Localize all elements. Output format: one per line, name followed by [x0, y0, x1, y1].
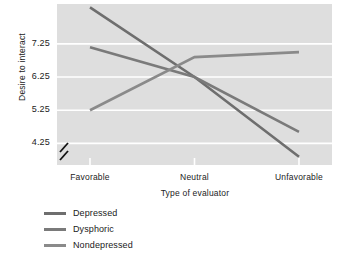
y-axis-title: Desire to interact — [17, 17, 27, 117]
legend: DepressedDysphoricNondepressed — [44, 205, 133, 253]
y-tick-label-6.25: 6.25 — [10, 71, 50, 81]
legend-swatch-icon — [44, 244, 66, 247]
legend-item-label: Depressed — [73, 208, 117, 218]
legend-item-label: Dysphoric — [73, 224, 114, 234]
legend-item-label: Nondepressed — [73, 240, 133, 250]
chart-figure: 7.256.255.254.25 FavorableNeutralUnfavor… — [0, 0, 341, 263]
x-tick-label-favorable: Favorable — [50, 172, 130, 182]
legend-swatch-icon — [44, 228, 66, 231]
plot-background — [57, 4, 332, 165]
legend-swatch-icon — [44, 212, 66, 215]
legend-item-dysphoric: Dysphoric — [44, 221, 133, 237]
legend-item-depressed: Depressed — [44, 205, 133, 221]
y-tick-label-4.25: 4.25 — [10, 137, 50, 147]
x-axis-title: Type of evaluator — [110, 188, 280, 198]
legend-item-nondepressed: Nondepressed — [44, 237, 133, 253]
x-tick-label-unfavorable: Unfavorable — [259, 172, 339, 182]
y-tick-label-7.25: 7.25 — [10, 38, 50, 48]
y-tick-label-5.25: 5.25 — [10, 104, 50, 114]
x-tick-label-neutral: Neutral — [155, 172, 235, 182]
